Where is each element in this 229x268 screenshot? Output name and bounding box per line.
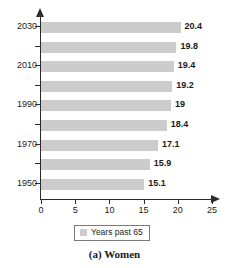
bar-row: 17.1 xyxy=(41,138,217,158)
y-axis-tick xyxy=(35,124,40,125)
x-axis-tick-label: 15 xyxy=(134,204,154,216)
bar-value-label: 19 xyxy=(175,97,185,112)
bar-chart-plot-area: 20302010199019701950 20.419.819.419.2191… xyxy=(0,0,229,212)
bar xyxy=(41,100,171,111)
bar-value-label: 19.4 xyxy=(178,58,196,73)
bar xyxy=(41,159,150,170)
chart-legend: Years past 65 xyxy=(74,225,150,241)
y-axis-tick-label: 1950 xyxy=(3,178,37,188)
x-axis-line xyxy=(40,199,212,200)
bar-value-label: 19.8 xyxy=(180,39,198,54)
bar-row: 20.4 xyxy=(41,20,217,40)
bar-value-label: 19.2 xyxy=(176,78,194,93)
figure-women-years-past-65: 20302010199019701950 20.419.819.419.2191… xyxy=(0,0,229,268)
bar-value-label: 18.4 xyxy=(171,117,189,132)
y-axis-tick-label: 2030 xyxy=(3,21,37,31)
bar-row: 15.1 xyxy=(41,177,217,197)
bar-row: 19.4 xyxy=(41,59,217,79)
y-axis-tick xyxy=(35,163,40,164)
bar-value-label: 15.9 xyxy=(154,156,172,171)
y-axis-tick-label: 1990 xyxy=(3,99,37,109)
figure-caption: (a) Women xyxy=(0,248,229,260)
bar xyxy=(41,42,176,53)
legend-swatch-icon xyxy=(80,229,87,236)
bar-series-years-past-65: 20.419.819.419.21918.417.115.915.1 xyxy=(41,20,217,199)
y-axis-tick xyxy=(35,85,40,86)
bar-row: 18.4 xyxy=(41,118,217,138)
y-axis-tick xyxy=(35,46,40,47)
y-axis-arrowhead-icon xyxy=(36,8,44,17)
bar-row: 19.8 xyxy=(41,40,217,60)
bar-row: 19.2 xyxy=(41,79,217,99)
bar xyxy=(41,120,167,131)
x-axis-tick-label: 10 xyxy=(99,204,119,216)
bar-row: 15.9 xyxy=(41,157,217,177)
y-axis-tick-label: 1970 xyxy=(3,139,37,149)
y-axis-tick-label: 2010 xyxy=(3,60,37,70)
bar xyxy=(41,61,174,72)
bar-value-label: 17.1 xyxy=(162,137,180,152)
legend-label: Years past 65 xyxy=(91,227,143,238)
x-axis-tick-label: 25 xyxy=(202,204,222,216)
bar-value-label: 15.1 xyxy=(148,176,166,191)
bar-value-label: 20.4 xyxy=(185,19,203,34)
bar-row: 19 xyxy=(41,98,217,118)
x-axis-tick-label: 20 xyxy=(168,204,188,216)
bar xyxy=(41,140,158,151)
bar xyxy=(41,22,181,33)
x-axis-tick-label: 5 xyxy=(65,204,85,216)
bar xyxy=(41,81,172,92)
x-axis-tick-label: 0 xyxy=(31,204,51,216)
bar xyxy=(41,179,144,190)
